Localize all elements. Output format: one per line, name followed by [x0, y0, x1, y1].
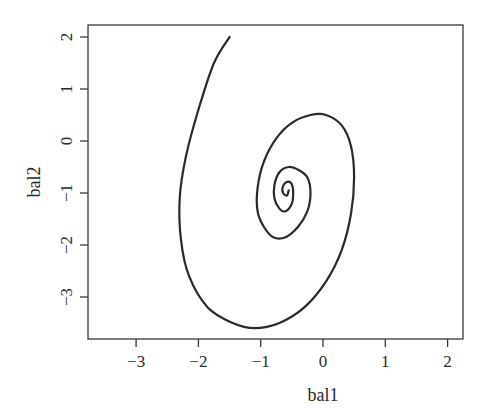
y-tick-label: 2 [57, 33, 76, 42]
spiral-chart: −3−2−1012 −3−2−1012 bal1 bal2 [0, 0, 486, 420]
x-tick-label: −2 [189, 352, 207, 371]
x-tick-label: −1 [252, 352, 270, 371]
x-tick-label: −3 [127, 352, 145, 371]
y-axis-ticks: −3−2−1012 [57, 33, 88, 306]
x-tick-label: 0 [319, 352, 328, 371]
x-tick-label: 1 [381, 352, 390, 371]
y-tick-label: −1 [57, 184, 76, 202]
x-axis-title: bal1 [308, 385, 339, 405]
y-axis-title: bal2 [24, 167, 44, 198]
y-tick-label: 1 [57, 85, 76, 94]
y-tick-label: −3 [57, 288, 76, 306]
x-tick-label: 2 [443, 352, 452, 371]
y-tick-label: −2 [57, 236, 76, 254]
spiral-trajectory-line [179, 37, 354, 328]
x-axis-ticks: −3−2−1012 [127, 339, 452, 371]
y-tick-label: 0 [57, 137, 76, 146]
